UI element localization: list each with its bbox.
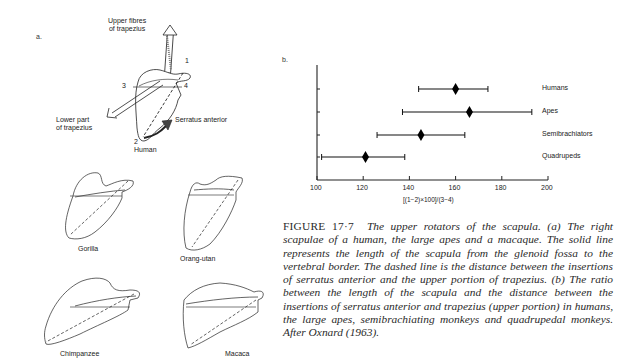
caption-text: The upper rotators of the scapula. (a) T… — [283, 220, 613, 338]
category-label: Apes — [542, 107, 558, 115]
x-tick-label: 160 — [449, 184, 461, 192]
figure-caption: FIGURE 17·7 The upper rotators of the sc… — [283, 220, 613, 340]
category-label: Semibrachiators — [542, 130, 593, 138]
category-label: Quadrupeds — [542, 152, 581, 160]
x-tick-label: 120 — [356, 184, 368, 192]
x-tick-label: 200 — [541, 184, 553, 192]
category-label: Humans — [542, 84, 568, 92]
figure-number: FIGURE 17·7 — [283, 220, 354, 232]
x-tick-label: 180 — [495, 184, 507, 192]
x-tick-label: 140 — [402, 184, 414, 192]
x-tick-label: 100 — [310, 184, 322, 192]
x-axis-label: [(1−2)×100]/(3−4) — [403, 196, 454, 204]
